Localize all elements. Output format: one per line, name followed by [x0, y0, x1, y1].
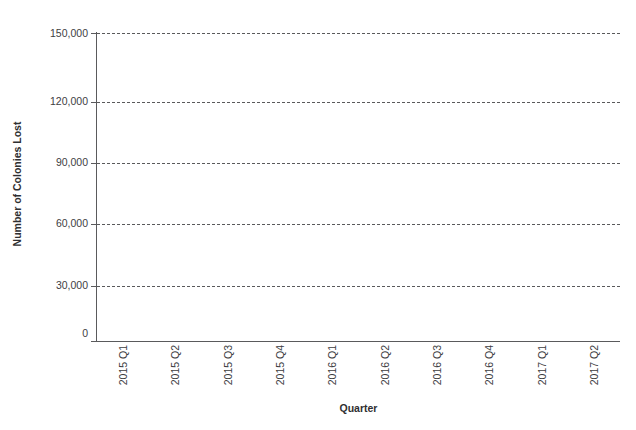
x-tick-cell: 2015 Q2 — [149, 345, 201, 397]
x-tick-label: 2015 Q2 — [170, 345, 181, 385]
x-axis-title: Quarter — [97, 402, 620, 414]
x-axis-line — [96, 341, 620, 342]
x-tick-cell: 2015 Q3 — [202, 345, 254, 397]
x-tick-label: 2017 Q1 — [536, 345, 547, 385]
x-tick-label: 2015 Q1 — [118, 345, 129, 385]
y-tick-label: 0 — [2, 328, 88, 339]
chart-figure: 0 30,000 60,000 90,000 120,000 150,000 N… — [0, 0, 636, 430]
gridline — [97, 163, 620, 164]
x-tick-cell: 2016 Q2 — [359, 345, 411, 397]
gridline — [97, 33, 620, 34]
x-tick-cell: 2016 Q4 — [463, 345, 515, 397]
x-tick-cell: 2015 Q1 — [97, 345, 149, 397]
x-tick-cell: 2015 Q4 — [254, 345, 306, 397]
y-tick-label: 150,000 — [2, 28, 88, 39]
x-tick-label: 2017 Q2 — [588, 345, 599, 385]
chart-title — [0, 0, 636, 11]
x-tick-cell: 2016 Q3 — [411, 345, 463, 397]
y-axis-title: Number of Colonies Lost — [11, 104, 23, 264]
x-tick-label: 2016 Q2 — [379, 345, 390, 385]
plot-area — [97, 33, 620, 341]
x-tick-label: 2015 Q3 — [222, 345, 233, 385]
x-tick-label: 2015 Q4 — [275, 345, 286, 385]
x-tick-cell: 2017 Q1 — [515, 345, 567, 397]
x-tick-cell: 2016 Q1 — [306, 345, 358, 397]
x-tick-label: 2016 Q4 — [484, 345, 495, 385]
gridline — [97, 224, 620, 225]
x-tick-label: 2016 Q1 — [327, 345, 338, 385]
gridline — [97, 286, 620, 287]
gridline — [97, 102, 620, 103]
x-tick-cell: 2017 Q2 — [568, 345, 620, 397]
x-axis-tick-labels: 2015 Q1 2015 Q2 2015 Q3 2015 Q4 2016 Q1 … — [97, 345, 620, 397]
y-tick-label: 30,000 — [2, 280, 88, 291]
x-tick-label: 2016 Q3 — [431, 345, 442, 385]
